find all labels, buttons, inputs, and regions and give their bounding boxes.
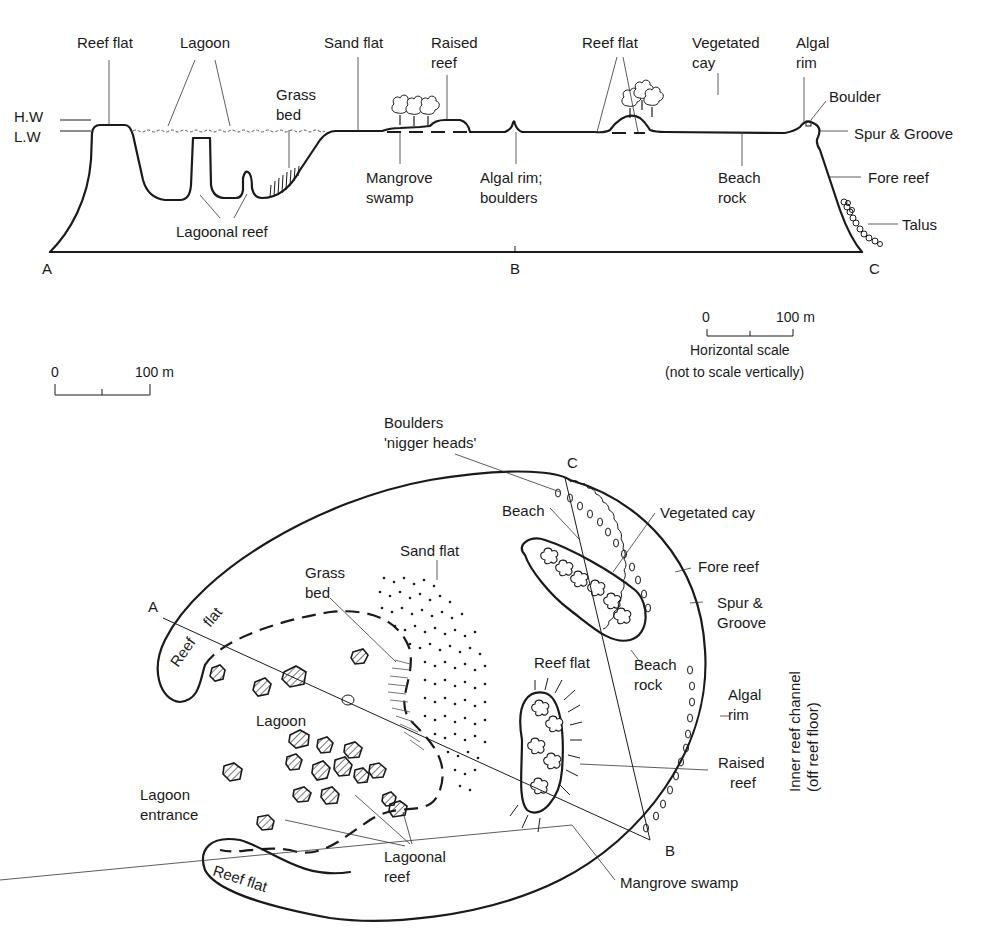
plan-label-grass-bed-1: Grass bbox=[305, 564, 345, 581]
plan-label-algal-rim-2: rim bbox=[728, 706, 749, 723]
plan-label-beach: Beach bbox=[502, 502, 545, 519]
plan-label-lagoon: Lagoon bbox=[256, 712, 306, 729]
plan-label-spur-groove-2: Groove bbox=[717, 614, 766, 631]
cay-trees bbox=[622, 80, 663, 118]
label-lagoon: Lagoon bbox=[180, 34, 230, 51]
plan-label-sand-flat: Sand flat bbox=[400, 542, 460, 559]
label-boulder: Boulder bbox=[829, 88, 881, 105]
lagoon-edge-dashed bbox=[205, 611, 443, 852]
plan-label-vegetated-cay: Vegetated cay bbox=[660, 504, 756, 521]
label-mangrove-2: swamp bbox=[366, 189, 414, 206]
plan-label-reef-flat-top-a: Reef bbox=[167, 633, 200, 669]
label-vegetated-cay-1: Vegetated bbox=[692, 34, 760, 51]
plan-label-inner-channel-1: Inner reef channel bbox=[786, 671, 803, 792]
plan-label-boulders-1: Boulders bbox=[384, 414, 443, 431]
plan-leaders bbox=[0, 454, 729, 880]
lagoonal-reef-patches bbox=[210, 649, 407, 830]
mangrove-trees bbox=[392, 95, 439, 126]
plan-label-raised-reef-2: reef bbox=[730, 774, 757, 791]
plan-label-boulders-2: 'nigger heads' bbox=[384, 434, 477, 451]
plan-point-a: A bbox=[148, 598, 158, 615]
plan-label-beach-rock-2: rock bbox=[634, 676, 663, 693]
label-low-water: L.W bbox=[14, 128, 42, 145]
plan-label-lagoonal-reef-2: reef bbox=[384, 868, 411, 885]
plan-scale-bar: 0 100 m bbox=[51, 364, 174, 395]
plan-label-mangrove-swamp: Mangrove swamp bbox=[620, 874, 738, 891]
label-algal-rim-boulders-2: boulders bbox=[480, 189, 538, 206]
plan-label-algal-rim-1: Algal bbox=[728, 686, 761, 703]
plan-label-spur-groove-1: Spur & bbox=[717, 594, 763, 611]
label-grass-bed-1: Grass bbox=[276, 86, 316, 103]
plan-label-raised-reef-1: Raised bbox=[718, 754, 765, 771]
label-algal-rim-1: Algal bbox=[796, 34, 829, 51]
vegetated-cay bbox=[522, 539, 646, 641]
label-raised-reef-1: Raised bbox=[431, 34, 478, 51]
label-beach-rock-1: Beach bbox=[718, 169, 761, 186]
label-algal-rim-2: rim bbox=[796, 54, 817, 71]
plan-label-grass-bed-2: bed bbox=[305, 584, 330, 601]
label-algal-rim-boulders-1: Algal rim; bbox=[480, 169, 543, 186]
label-grass-bed-2: bed bbox=[276, 106, 301, 123]
section-scale-max: 100 m bbox=[776, 309, 815, 325]
label-fore-reef: Fore reef bbox=[868, 169, 930, 186]
label-high-water: H.W bbox=[14, 108, 44, 125]
section-point-c: C bbox=[869, 260, 880, 277]
plan-point-b: B bbox=[665, 842, 675, 859]
section-scale-zero: 0 bbox=[702, 309, 710, 325]
plan-label-lagoon-entrance-1: Lagoon bbox=[140, 786, 190, 803]
plan-point-c: C bbox=[567, 454, 578, 471]
plan-label-beach-rock-1: Beach bbox=[634, 656, 677, 673]
reef-diagram: Reef flat Lagoon Grass bed Lagoonal reef… bbox=[0, 0, 996, 951]
section-point-b: B bbox=[510, 260, 520, 277]
lagoon-water-surface bbox=[133, 130, 325, 132]
label-vegetated-cay-2: cay bbox=[692, 54, 716, 71]
label-sand-flat: Sand flat bbox=[324, 34, 384, 51]
talus-boulders bbox=[841, 199, 883, 247]
label-lagoonal-reef: Lagoonal reef bbox=[176, 223, 269, 240]
cross-section: Reef flat Lagoon Grass bed Lagoonal reef… bbox=[14, 34, 953, 380]
section-point-a: A bbox=[42, 260, 52, 277]
section-scale-caption-1: Horizontal scale bbox=[690, 342, 790, 358]
label-talus: Talus bbox=[902, 216, 937, 233]
label-reef-flat-left: Reef flat bbox=[77, 34, 134, 51]
section-scale-bar: 0 100 m Horizontal scale (not to scale v… bbox=[665, 309, 815, 380]
plan-view: 0 100 m bbox=[0, 364, 821, 921]
plan-scale-zero: 0 bbox=[51, 364, 59, 380]
label-mangrove-1: Mangrove bbox=[366, 169, 433, 186]
section-scale-caption-2: (not to scale vertically) bbox=[665, 364, 804, 380]
label-raised-reef-2: reef bbox=[431, 54, 458, 71]
plan-label-lagoon-entrance-2: entrance bbox=[140, 806, 198, 823]
plan-label-reef-flat-center: Reef flat bbox=[534, 654, 591, 671]
plan-label-fore-reef: Fore reef bbox=[698, 558, 760, 575]
plan-label-reef-flat-top-b: flat bbox=[199, 603, 225, 630]
plan-scale-max: 100 m bbox=[135, 364, 174, 380]
label-reef-flat-right: Reef flat bbox=[582, 34, 639, 51]
grass-bed-hatch bbox=[270, 166, 299, 197]
sand-flat-dots bbox=[379, 577, 487, 792]
plan-label-inner-channel-2: (off reef floor) bbox=[804, 702, 821, 792]
grass-bed-strokes bbox=[388, 660, 424, 750]
plan-label-reef-flat-bottom: Reef flat bbox=[211, 862, 270, 896]
label-beach-rock-2: rock bbox=[718, 189, 747, 206]
label-spur-groove: Spur & Groove bbox=[854, 125, 953, 142]
plan-label-lagoonal-reef-1: Lagoonal bbox=[384, 848, 446, 865]
raised-reef-island bbox=[510, 678, 582, 832]
